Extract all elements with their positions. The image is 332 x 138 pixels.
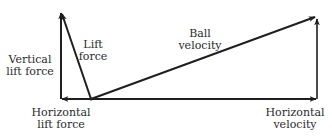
label-lift-force: Lift force: [76, 39, 110, 63]
label-line: velocity: [263, 119, 327, 131]
label-line: force: [76, 51, 110, 63]
label-horizontal-lift-force: Horizontal lift force: [30, 107, 92, 131]
label-vertical-lift-force: Vertical lift force: [2, 54, 58, 78]
label-horizontal-velocity: Horizontal velocity: [263, 107, 327, 131]
origin-point: [89, 97, 92, 100]
label-line: lift force: [2, 66, 58, 78]
label-line: lift force: [30, 119, 92, 131]
label-line: velocity: [176, 40, 224, 52]
label-ball-velocity: Ball velocity: [176, 28, 224, 52]
